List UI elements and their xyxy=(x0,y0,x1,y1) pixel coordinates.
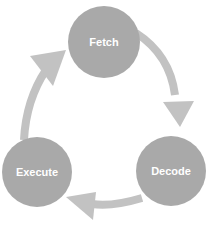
arrow-execute-to-fetch xyxy=(24,50,66,140)
arrow-fetch-to-decode xyxy=(136,33,194,127)
node-label-execute: Execute xyxy=(2,166,72,178)
node-label-decode: Decode xyxy=(136,165,206,177)
arrow-decode-to-execute xyxy=(66,192,142,220)
cycle-diagram xyxy=(0,0,209,227)
node-label-fetch: Fetch xyxy=(69,36,139,48)
